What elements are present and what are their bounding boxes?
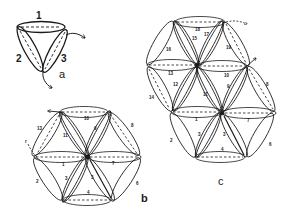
panel-b-loop-label: 4	[87, 191, 90, 196]
panel-a-loop-label-3: 3	[61, 54, 67, 64]
panel-c-loop-label: 17	[204, 33, 209, 38]
panel-a-loop-label-1: 1	[36, 11, 42, 21]
panel-c-loop-label: 7	[247, 119, 250, 124]
panel-c-loop-label: 15	[192, 37, 197, 42]
panel-a-drawing	[13, 22, 85, 89]
panel-c-loop-label: 4	[221, 148, 224, 153]
panel-b-loop-label: 7	[112, 162, 115, 167]
panel-c-loop-label: 3	[223, 133, 226, 138]
panel-c-loop-label: 6	[269, 143, 272, 148]
panel-c-loop-label: 10	[224, 74, 229, 79]
panel-a-label: a	[59, 69, 65, 80]
exit-arrow-right	[247, 58, 256, 66]
panel-c-loop-label: 16	[166, 48, 171, 53]
panel-c-loop-label: 12	[173, 83, 178, 88]
panel-b-loop-label: 1	[62, 163, 65, 168]
panel-b-loop-label: 3	[65, 177, 68, 182]
panel-c-loop-label: 9	[227, 85, 230, 90]
panel-b-loop-label: 10	[84, 117, 89, 122]
panel-b-loop-label: 3	[91, 176, 94, 181]
panel-b-label: b	[141, 193, 148, 204]
exit-arrow-top	[226, 21, 247, 24]
panel-b-loop-label: 6	[136, 182, 139, 187]
panel-c-loop-label: 8	[266, 83, 269, 88]
panel-b-loop-label: 8	[131, 124, 134, 129]
panel-c-loop-label: 11	[203, 93, 208, 98]
diagram-canvas	[0, 0, 289, 220]
panel-c-loop-label: 13	[168, 72, 173, 77]
panel-c-loop-label: 19	[226, 46, 231, 51]
panel-b-loop-label: 11	[63, 134, 68, 139]
panel-b-loop-label: 2	[36, 180, 39, 185]
panel-b-loop-label: 9	[94, 127, 97, 132]
panel-b-start-marker: r	[25, 140, 27, 145]
exit-arrow-down	[43, 71, 52, 88]
entry-arrow	[48, 111, 60, 112]
panel-c-loop-label: 2	[170, 139, 173, 144]
panel-c-loop-label: 3	[198, 133, 201, 138]
panel-b-loop-label: 13	[37, 127, 42, 132]
panel-c-loop-label: 14	[149, 96, 154, 101]
panel-a-loop-label-2: 2	[16, 54, 22, 64]
panel-c-loop-label: 1	[195, 118, 198, 123]
panel-c-loop-label: 18	[195, 28, 200, 33]
panel-c-drawing	[142, 17, 279, 163]
exit-arrow-right	[66, 33, 85, 38]
panel-c-label: c	[218, 176, 224, 187]
